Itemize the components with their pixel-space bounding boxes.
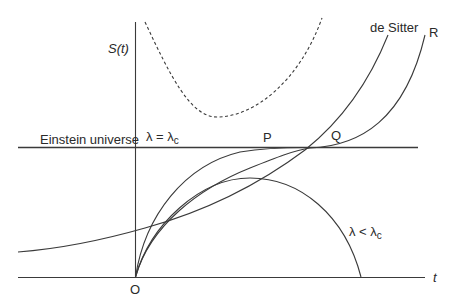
point-p-label: P: [263, 131, 272, 144]
lambda-subcritical-label: λ < λc: [349, 225, 382, 238]
lambda-critical-text: λ = λ: [146, 129, 174, 144]
origin-label: O: [130, 283, 140, 296]
t-axis-label: t: [433, 271, 437, 284]
lambda-critical-label: λ = λc: [146, 130, 179, 143]
point-q-label: Q: [331, 129, 341, 142]
lambda-critical-curve: [136, 148, 306, 278]
lambda-subcritical-text: λ < λ: [349, 224, 377, 239]
einstein-universe-label: Einstein universe: [40, 133, 139, 146]
lambda-subcritical-curve: [136, 178, 362, 277]
de-sitter-label: de Sitter: [370, 21, 418, 34]
lambda-critical-sub: c: [174, 135, 179, 146]
lambda-subcritical-sub: c: [377, 230, 382, 241]
cosmology-diagram: [0, 0, 455, 303]
y-axis-label: S(t): [108, 42, 129, 55]
point-r-label: R: [429, 26, 438, 39]
bouncing-curve-dashed: [145, 18, 322, 117]
